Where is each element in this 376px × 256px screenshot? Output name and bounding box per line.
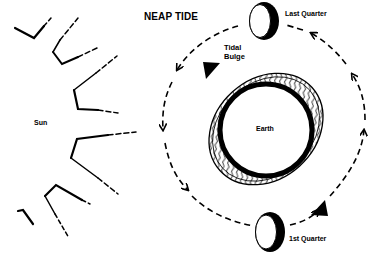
diagram-title: NEAP TIDE — [144, 12, 198, 22]
moon-first-quarter-icon — [255, 212, 285, 252]
triangle-lower-right — [311, 200, 328, 216]
label-sun: Sun — [34, 119, 47, 126]
triangle-upper-left — [203, 62, 220, 79]
moon-last-quarter-icon — [249, 2, 279, 40]
label-last-quarter: Last Quarter — [285, 10, 327, 17]
label-tidal-bulge: Tidal Bulge — [224, 43, 245, 61]
label-first-quarter: 1st Quarter — [289, 235, 326, 242]
sun-rays-icon — [15, 18, 136, 238]
neap-tide-diagram: NEAP TIDE Last Quarter Tidal Bulge Earth… — [0, 0, 376, 256]
label-earth: Earth — [256, 125, 274, 132]
